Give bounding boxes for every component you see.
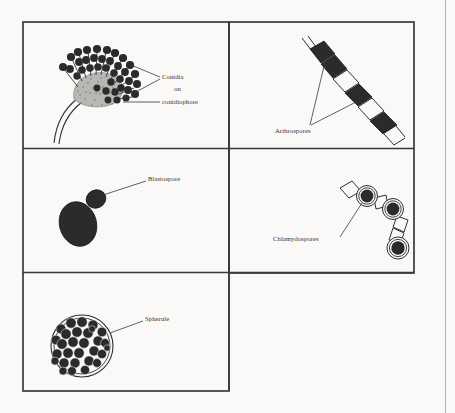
conidiophore-stalk (54, 99, 82, 144)
figure-canvas: Conidia on conidiophore (22, 21, 415, 392)
conidia-label: Conidia (162, 73, 184, 80)
page-edge-rule (445, 0, 446, 413)
chlamydospores-panel-content (340, 181, 409, 259)
arthrospore-hypha (302, 36, 405, 145)
conidia-panel-content (54, 45, 160, 144)
chlamydospores-leader-line (340, 203, 362, 237)
chlamydospore-hyphal-chain (340, 181, 409, 259)
blastospore-leader-line (103, 181, 146, 195)
chlamydospore (357, 186, 378, 207)
fungal-spore-figure: Conidia on conidiophore (22, 21, 415, 392)
arthrospores-panel-content (302, 36, 405, 145)
figure-page: Conidia on conidiophore (0, 0, 455, 413)
blastospore-label: Blastospore (148, 175, 180, 182)
chlamydospore (387, 237, 409, 259)
spherule-panel-content (51, 315, 143, 377)
spherule-leader-line (110, 321, 143, 333)
blastospore-panel-content (54, 181, 146, 251)
conidiophore-label: conidiophore (162, 98, 198, 105)
chlamydospore (383, 199, 404, 220)
spherule-label: Spherule (145, 315, 169, 322)
chlamydospores-label: Chlamydospores (273, 235, 319, 242)
arthrospores-label: Arthrospores (275, 127, 311, 134)
conidia-label-on: on (174, 85, 181, 92)
